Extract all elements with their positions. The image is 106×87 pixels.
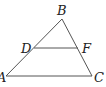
triangle-diagram: B D F A C — [0, 0, 106, 87]
label-f: F — [81, 41, 92, 56]
label-b: B — [56, 3, 67, 18]
label-d: D — [20, 41, 32, 56]
label-a: A — [0, 70, 6, 85]
label-c: C — [94, 70, 104, 85]
